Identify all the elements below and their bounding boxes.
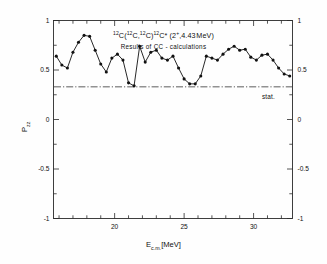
y-tick-label-left: -0.5 <box>30 165 50 172</box>
y-tick-label-right: 0 <box>298 116 318 123</box>
statistical-limit-label: stat. <box>262 93 275 100</box>
y-tick-label-right: 1 <box>298 17 318 24</box>
y-tick-label-left: -1 <box>30 215 50 222</box>
y-tick-label-right: -0.5 <box>298 165 318 172</box>
y-axis-title: Pzz <box>20 122 29 132</box>
x-tick-label: 30 <box>247 223 261 230</box>
data-points <box>55 34 292 88</box>
y-tick-label-right: -1 <box>298 215 318 222</box>
x-axis-title: Ec.m.[MeV] <box>0 240 327 249</box>
chart-figure: 12C(12C,12C)12C* (2+,4.43 MeV) Results o… <box>0 0 327 264</box>
y-tick-label-right: 0.5 <box>298 66 318 73</box>
axis-ticks <box>54 21 293 219</box>
axes-frame <box>54 21 293 219</box>
y-tick-label-left: 1 <box>30 17 50 24</box>
y-tick-label-left: 0.5 <box>30 66 50 73</box>
plot-area <box>0 0 327 264</box>
x-tick-label: 20 <box>108 223 122 230</box>
data-line <box>56 35 289 85</box>
y-tick-label-left: 0 <box>30 116 50 123</box>
x-tick-label: 25 <box>177 223 191 230</box>
